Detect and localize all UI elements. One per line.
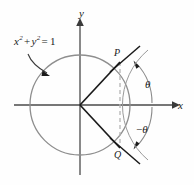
theta-negative-symbol: θ: [142, 123, 147, 135]
x-axis: [14, 101, 180, 109]
equation-pointer-arrowhead: [42, 71, 51, 77]
point-q-label: Q: [114, 150, 121, 160]
theta-negative-label: −θ: [136, 124, 148, 135]
figure-canvas: [0, 0, 194, 185]
equation-plus-sign: +: [23, 35, 32, 47]
y-axis: [76, 18, 84, 175]
y-axis-arrowhead: [76, 18, 84, 26]
equation-exponent-y: 2: [37, 34, 41, 42]
x-axis-label: x: [178, 100, 183, 111]
y-axis-label: y: [79, 8, 84, 19]
equation-label: x2+y2=1: [14, 36, 57, 47]
equation-equals-sign: =: [41, 35, 50, 47]
equation-value: 1: [49, 35, 57, 47]
point-p-label: P: [114, 48, 120, 58]
theta-positive-label: θ: [145, 79, 150, 90]
unit-circle-figure: x2+y2=1 y x P Q θ −θ: [0, 0, 194, 185]
